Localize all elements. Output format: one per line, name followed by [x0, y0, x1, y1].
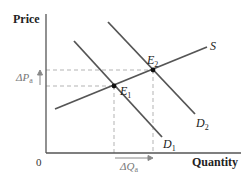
- supply-label: S: [210, 39, 216, 53]
- guide-lines: [46, 70, 153, 153]
- demand-curve-d2: [108, 22, 195, 114]
- e1-label: E1: [119, 84, 131, 100]
- d2-label: D2: [195, 116, 209, 132]
- delta-price-label: ΔPa: [15, 71, 33, 85]
- equilibrium-point-e1: [112, 84, 117, 89]
- y-axis-title: Price: [13, 12, 40, 26]
- x-axis-title: Quantity: [192, 155, 238, 169]
- delta-quantity-label: ΔQa: [119, 160, 138, 174]
- supply-demand-diagram: Price Quantity 0 S D1 D2 E1 E2 ΔPa ΔQa: [0, 0, 249, 185]
- origin-label: 0: [36, 156, 42, 168]
- e2-label: E2: [146, 53, 158, 69]
- chart-canvas: Price Quantity 0 S D1 D2 E1 E2 ΔPa ΔQa: [0, 0, 249, 185]
- d1-label: D1: [162, 137, 176, 153]
- delta-price-arrow: [38, 70, 43, 85]
